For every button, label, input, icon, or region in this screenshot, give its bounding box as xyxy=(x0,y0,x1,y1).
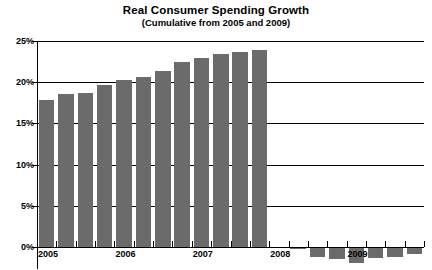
plot-area xyxy=(37,41,424,247)
x-axis-line xyxy=(37,247,424,248)
x-tick-mark xyxy=(153,241,154,247)
x-tick-mark xyxy=(366,241,367,247)
x-year-label-2008: 2008 xyxy=(270,249,290,259)
bar xyxy=(329,247,344,259)
bar xyxy=(213,54,228,247)
bar xyxy=(387,247,402,257)
x-year-label-2005: 2005 xyxy=(38,249,58,259)
y-tick-label-0: 0% xyxy=(2,242,34,252)
y-tick-label-5: 5% xyxy=(2,201,34,211)
y-tick-label-15: 15% xyxy=(2,118,34,128)
bar xyxy=(136,77,151,247)
x-tick-mark xyxy=(405,241,406,247)
bar xyxy=(97,85,112,247)
y-tick-label-25: 25% xyxy=(2,36,34,46)
bar xyxy=(39,100,54,247)
bar xyxy=(310,247,325,257)
chart-title: Real Consumer Spending Growth xyxy=(0,4,432,17)
bar xyxy=(194,58,209,247)
bar xyxy=(116,80,131,247)
x-tick-mark xyxy=(172,241,173,247)
x-tick-mark xyxy=(231,241,232,247)
chart-subtitle: (Cumulative from 2005 and 2009) xyxy=(0,17,432,29)
x-tick-mark xyxy=(308,241,309,247)
bar-series xyxy=(37,41,424,247)
bar xyxy=(252,50,267,247)
x-tick-mark xyxy=(385,241,386,247)
y-axis-labels: 0%5%10%15%20%25% xyxy=(0,0,34,270)
y-tick-label-10: 10% xyxy=(2,160,34,170)
chart-title-block: Real Consumer Spending Growth (Cumulativ… xyxy=(0,4,432,29)
x-tick-mark xyxy=(37,241,38,247)
bar xyxy=(368,247,383,258)
bar xyxy=(232,52,247,247)
bar xyxy=(155,71,170,247)
y-tick-label-20: 20% xyxy=(2,77,34,87)
x-tick-mark xyxy=(424,241,425,247)
x-tick-mark xyxy=(56,241,57,247)
bar xyxy=(58,94,73,247)
chart-screenshot: Real Consumer Spending Growth (Cumulativ… xyxy=(0,0,432,270)
x-tick-mark xyxy=(76,241,77,247)
x-tick-mark xyxy=(327,241,328,247)
x-tick-mark xyxy=(134,241,135,247)
bar xyxy=(78,93,93,247)
x-year-label-2009: 2009 xyxy=(348,249,368,259)
x-year-label-2007: 2007 xyxy=(193,249,213,259)
x-tick-mark xyxy=(95,241,96,247)
x-tick-mark xyxy=(347,241,348,247)
x-tick-mark xyxy=(114,241,115,247)
x-tick-mark xyxy=(289,241,290,247)
x-tick-mark xyxy=(192,241,193,247)
x-tick-mark xyxy=(269,241,270,247)
x-tick-mark xyxy=(250,241,251,247)
x-tick-mark xyxy=(211,241,212,247)
x-year-label-2006: 2006 xyxy=(115,249,135,259)
bar xyxy=(174,62,189,247)
